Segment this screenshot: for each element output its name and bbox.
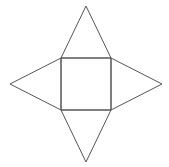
triangle-top bbox=[61, 6, 111, 58]
base-square bbox=[61, 58, 111, 110]
pyramid-net-diagram bbox=[0, 0, 169, 167]
triangle-bottom bbox=[61, 110, 111, 162]
triangle-right bbox=[111, 58, 162, 110]
net-svg bbox=[0, 0, 169, 167]
triangle-left bbox=[10, 58, 61, 110]
